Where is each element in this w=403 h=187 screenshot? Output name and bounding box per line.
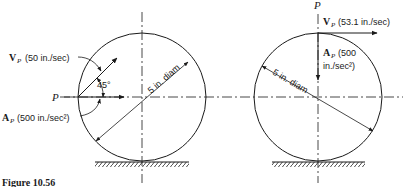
left-acceleration-subscript: P [9, 117, 15, 125]
left-acceleration-value: (500 in./sec²) [17, 113, 70, 123]
figure-caption: Figure 10.56 [2, 177, 55, 187]
right-diameter-label: 5 in. diam [271, 67, 310, 95]
velocity-leader [78, 57, 101, 71]
left-point-label: P [51, 91, 59, 103]
right-velocity-subscript: P [330, 21, 336, 29]
figure-canvas: V P (50 in./sec) P A P (500 in./sec²) 45… [0, 0, 403, 187]
right-acceleration-value-line1: (500 [338, 48, 356, 58]
right-acceleration-subscript: P [330, 52, 336, 60]
right-point-label: P [313, 0, 321, 11]
left-velocity-subscript: P [16, 57, 22, 65]
left-acceleration-symbol: A [2, 112, 10, 123]
velocity-vector-icon [78, 58, 117, 97]
left-ground-hatch [95, 162, 189, 167]
right-acceleration-symbol: A [323, 47, 331, 58]
right-diagram: P V P (53.1 in./sec) A P (500 in./sec²) … [254, 0, 390, 183]
left-velocity-value: (50 in./sec) [25, 53, 70, 63]
angle-label: 45° [97, 80, 111, 90]
right-velocity-value: (53.1 in./sec) [338, 17, 390, 27]
acceleration-leader [80, 99, 100, 116]
left-diagram: V P (50 in./sec) P A P (500 in./sec²) 45… [2, 12, 206, 183]
left-velocity-symbol: V [9, 52, 17, 63]
right-ground-hatch [272, 162, 365, 167]
right-velocity-symbol: V [323, 16, 331, 27]
right-acceleration-value-line2: in./sec²) [323, 61, 355, 71]
left-diameter-label: 5 in. diam [146, 62, 182, 95]
